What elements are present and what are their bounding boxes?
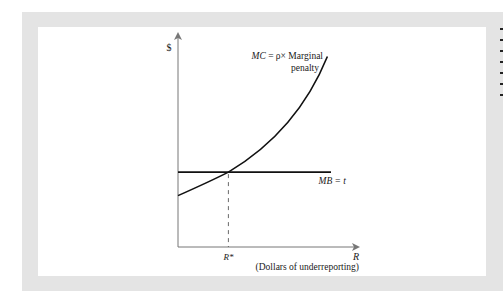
mc-series-label-line2: penalty: [291, 63, 319, 73]
mc-series-label: MC = ρ× Marginal: [251, 51, 324, 61]
x-axis-label: R: [352, 251, 359, 262]
mb-label-symbol: MB =: [317, 176, 343, 186]
mc-label-symbol: MC: [251, 51, 267, 61]
mb-series-label: MB = t: [317, 176, 346, 186]
x-tick-label-r-star: R*: [222, 252, 233, 262]
mb-label-value: t: [343, 176, 346, 186]
mc-series-curve: [178, 57, 327, 196]
y-axis-label: $: [167, 42, 172, 53]
x-axis-note: (Dollars of underreporting): [256, 262, 359, 273]
mc-label-formula: = ρ× Marginal: [266, 51, 324, 61]
chart: $ R (Dollars of underreporting) R* MC = …: [0, 0, 503, 301]
